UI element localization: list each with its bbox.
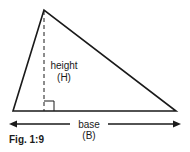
height-label: height — [50, 60, 77, 71]
figure-caption: Fig. 1:9 — [9, 134, 44, 145]
triangle-diagram: height (H) base (B) Fig. 1:9 — [0, 0, 190, 152]
right-angle-marker — [44, 101, 54, 111]
arrow-right-icon — [173, 121, 181, 128]
height-symbol: (H) — [57, 72, 71, 83]
base-label: base — [78, 119, 100, 130]
base-symbol: (B) — [82, 130, 95, 141]
arrow-left-icon — [9, 121, 17, 128]
triangle-outline — [13, 10, 176, 111]
